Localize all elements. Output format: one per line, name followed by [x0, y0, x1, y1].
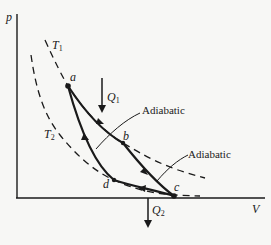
point-c-label: c: [174, 180, 180, 194]
q1-label: Q1: [107, 90, 120, 105]
point-b-label: b: [123, 129, 129, 143]
point-a: [65, 83, 71, 89]
point-c: [171, 193, 177, 199]
adiabatic-2-label: Adiabatic: [188, 148, 231, 160]
p-axis-label: p: [5, 10, 12, 24]
path-b-c: [123, 143, 174, 196]
adiabatic-1-leader: [96, 113, 140, 149]
carnot-cycle-diagram: p V T1 T2 a b c d: [0, 0, 271, 245]
adiabatic-1-label: Adiabatic: [142, 104, 185, 116]
arrow-a-b-icon: [96, 118, 104, 124]
v-axis-label: V: [252, 202, 261, 216]
isotherm-t2: [31, 55, 200, 196]
q2-label: Q2: [152, 203, 165, 218]
point-d-label: d: [103, 177, 110, 191]
diagram-svg: p V T1 T2 a b c d: [0, 0, 271, 245]
point-d: [112, 178, 116, 182]
t2-label: T2: [44, 127, 55, 142]
point-a-label: a: [70, 70, 76, 84]
t1-label: T1: [52, 38, 63, 53]
